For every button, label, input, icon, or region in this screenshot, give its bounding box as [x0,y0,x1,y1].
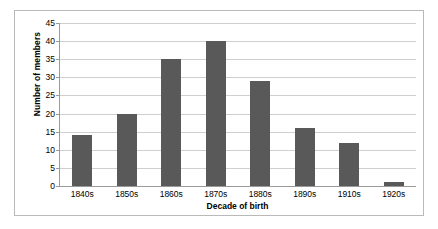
x-tick-label: 1920s [372,189,417,199]
bar-1880s[interactable] [250,81,270,186]
chart-container: Number of members 051015202530354045 184… [14,10,424,216]
plot-area: 051015202530354045 [59,23,416,186]
y-tick-label: 10 [46,145,55,155]
y-tick-label: 40 [46,36,55,46]
bar-series [60,23,416,186]
bar-slot [105,23,150,186]
y-tick-mark [56,186,59,187]
x-tick-label: 1890s [283,189,328,199]
bar-1890s[interactable] [295,128,315,186]
x-tick-label: 1850s [105,189,150,199]
bar-slot [238,23,283,186]
bar-1920s[interactable] [384,182,404,186]
x-tick-label: 1910s [327,189,372,199]
x-axis-tick-labels: 1840s1850s1860s1870s1880s1890s1910s1920s [60,189,416,199]
bar-1860s[interactable] [161,59,181,186]
y-axis-title: Number of members [32,4,42,144]
x-tick-label: 1860s [149,189,194,199]
bar-slot [372,23,417,186]
bar-1870s[interactable] [206,41,226,186]
bar-slot [149,23,194,186]
y-tick-label: 20 [46,109,55,119]
y-tick-label: 30 [46,72,55,82]
y-tick-label: 45 [46,18,55,28]
bar-slot [283,23,328,186]
bar-slot [194,23,239,186]
gridline [59,186,416,187]
x-tick-label: 1840s [60,189,105,199]
y-tick-label: 25 [46,90,55,100]
x-tick-label: 1880s [238,189,283,199]
y-tick-label: 5 [50,163,55,173]
bar-1910s[interactable] [339,143,359,186]
y-tick-label: 35 [46,54,55,64]
bar-slot [60,23,105,186]
bar-1850s[interactable] [117,114,137,186]
y-tick-label: 15 [46,127,55,137]
bar-1840s[interactable] [72,135,92,186]
x-tick-label: 1870s [194,189,239,199]
x-axis-title: Decade of birth [59,201,416,211]
y-tick-label: 0 [50,181,55,191]
bar-slot [327,23,372,186]
